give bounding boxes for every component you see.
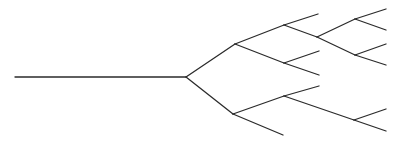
tree-edge-root-B bbox=[186, 77, 233, 114]
tree-edge-A-C bbox=[235, 25, 284, 44]
tree-edge-A-G bbox=[235, 44, 284, 63]
tree-edge-F-leafF2 bbox=[355, 55, 386, 65]
tree-edge-G-leafG2 bbox=[284, 63, 319, 75]
tree-edge-E-leafE1 bbox=[355, 9, 386, 19]
tree-edge-F-leafF1 bbox=[355, 44, 386, 55]
tree-edge-I-leafI1 bbox=[354, 109, 386, 120]
tree-edge-B-leafB1 bbox=[233, 114, 283, 135]
tree-edge-H-I bbox=[284, 96, 354, 120]
tree-edge-H-leafH1 bbox=[284, 86, 319, 96]
tree-edge-B-H bbox=[233, 96, 284, 114]
tree-edge-D-E bbox=[317, 19, 355, 37]
tree-diagram bbox=[0, 0, 401, 142]
tree-edge-root-A bbox=[186, 44, 235, 77]
tree-edge-D-F bbox=[317, 37, 355, 55]
tree-edge-E-leafE2 bbox=[355, 19, 386, 30]
tree-edge-C-D bbox=[284, 25, 317, 37]
tree-edge-C-leafC1 bbox=[284, 14, 318, 25]
tree-edge-I-leafI2 bbox=[354, 120, 386, 131]
tree-edge-G-leafG1 bbox=[284, 51, 319, 63]
